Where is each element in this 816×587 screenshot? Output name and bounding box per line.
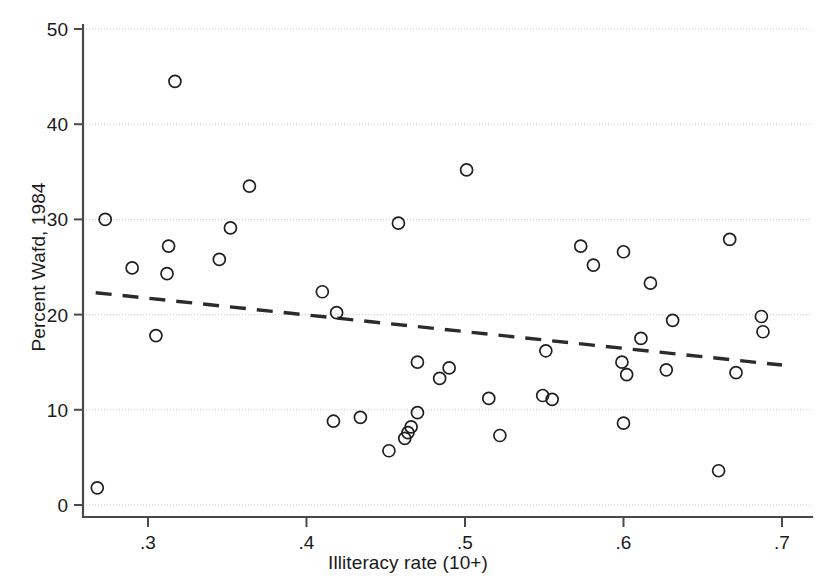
data-point xyxy=(724,233,736,245)
data-point xyxy=(243,180,255,192)
data-point xyxy=(616,356,628,368)
data-point xyxy=(411,356,423,368)
data-point xyxy=(163,240,175,252)
data-point xyxy=(618,417,630,429)
data-point xyxy=(161,268,173,280)
data-point xyxy=(224,222,236,234)
data-point xyxy=(91,482,103,494)
y-axis-title: Percent Wafd, 1984 xyxy=(28,29,50,505)
y-tick-label-20: 20 xyxy=(47,305,68,326)
trend-line xyxy=(96,293,782,365)
gridlines xyxy=(83,29,812,505)
data-point xyxy=(316,286,328,298)
data-point xyxy=(169,75,181,87)
data-point xyxy=(635,332,647,344)
data-point xyxy=(587,259,599,271)
x-tick-label-.7: .7 xyxy=(774,532,790,553)
data-point xyxy=(494,430,506,442)
data-point xyxy=(730,367,742,379)
y-tick-label-50: 50 xyxy=(47,19,68,40)
data-points xyxy=(91,75,769,494)
x-tick-label-.5: .5 xyxy=(457,532,473,553)
data-point xyxy=(540,345,552,357)
tick-labels: 01020304050.3.4.5.6.7 xyxy=(47,19,790,553)
data-point xyxy=(331,307,343,319)
axes xyxy=(74,25,812,527)
x-tick-label-.6: .6 xyxy=(616,532,632,553)
scatter-plot-figure: 01020304050.3.4.5.6.7 Percent Wafd, 1984… xyxy=(0,0,816,587)
data-point xyxy=(618,246,630,258)
data-point xyxy=(483,392,495,404)
data-point xyxy=(621,369,633,381)
y-tick-label-30: 30 xyxy=(47,209,68,230)
data-point xyxy=(757,326,769,338)
data-point xyxy=(126,262,138,274)
y-tick-label-0: 0 xyxy=(57,495,68,516)
data-point xyxy=(575,240,587,252)
data-point xyxy=(461,164,473,176)
y-tick-label-10: 10 xyxy=(47,400,68,421)
plot-canvas: 01020304050.3.4.5.6.7 xyxy=(0,0,816,587)
x-tick-label-.3: .3 xyxy=(140,532,156,553)
data-point xyxy=(213,253,225,265)
data-point xyxy=(667,314,679,326)
data-point xyxy=(327,415,339,427)
data-point xyxy=(755,311,767,323)
data-point xyxy=(660,364,672,376)
data-point xyxy=(150,330,162,342)
data-point xyxy=(411,407,423,419)
regression-line xyxy=(96,293,782,365)
data-point xyxy=(383,445,395,457)
y-tick-label-40: 40 xyxy=(47,114,68,135)
data-point xyxy=(713,465,725,477)
data-point xyxy=(434,372,446,384)
data-point xyxy=(354,411,366,423)
x-tick-label-.4: .4 xyxy=(299,532,315,553)
data-point xyxy=(443,362,455,374)
x-axis-title: Illiteracy rate (10+) xyxy=(0,552,816,574)
data-point xyxy=(644,277,656,289)
